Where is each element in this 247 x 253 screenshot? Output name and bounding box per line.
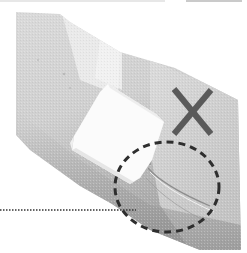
bandage-illustration — [0, 0, 247, 253]
bandage-photo-figure: Bandaged arm with gauze pad wrapped by a… — [0, 0, 247, 253]
